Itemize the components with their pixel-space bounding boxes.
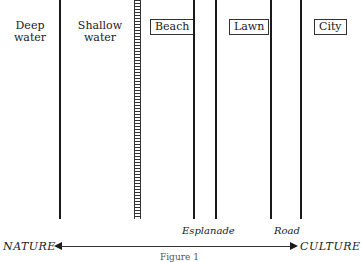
divider-esplanade-right <box>215 0 217 219</box>
arrow-right-icon <box>290 242 298 250</box>
zone-lawn: Lawn <box>229 19 269 35</box>
divider-deep-shallow <box>59 0 61 219</box>
zone-shallow-water: Shallow water <box>75 20 125 44</box>
zone-label-line: water <box>75 32 125 44</box>
label-road: Road <box>274 225 300 236</box>
zone-beach: Beach <box>150 19 194 35</box>
axis-label-nature: NATURE <box>3 240 56 253</box>
axis-line <box>60 246 293 247</box>
axis-label-culture: CULTURE <box>300 240 361 253</box>
divider-road-right <box>300 0 302 219</box>
zone-deep-water: Deep water <box>10 20 50 44</box>
figure-caption: Figure 1 <box>160 252 199 262</box>
zone-city: City <box>314 19 347 35</box>
divider-shoreline-ladder <box>134 0 141 219</box>
divider-road-left <box>270 0 272 219</box>
label-esplanade: Esplanade <box>182 225 235 236</box>
divider-esplanade-left <box>193 0 195 219</box>
zone-label-line: water <box>10 32 50 44</box>
